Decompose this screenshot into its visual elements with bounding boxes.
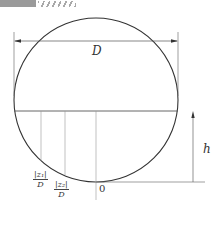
arrow-right-icon — [171, 39, 178, 42]
z1-numerator: |z₁| — [33, 170, 48, 180]
arrow-up-icon — [191, 111, 194, 118]
arrow-left-icon — [14, 39, 21, 42]
z1-fraction: |z₁| D — [33, 170, 48, 189]
z2-denominator: D — [54, 190, 69, 199]
z1-denominator: D — [33, 180, 48, 189]
origin-label: 0 — [99, 183, 105, 194]
height-label: h — [203, 142, 211, 156]
diameter-label: D — [92, 44, 102, 58]
z2-numerator: |z₂| — [54, 180, 69, 190]
z2-fraction: |z₂| D — [54, 180, 69, 199]
